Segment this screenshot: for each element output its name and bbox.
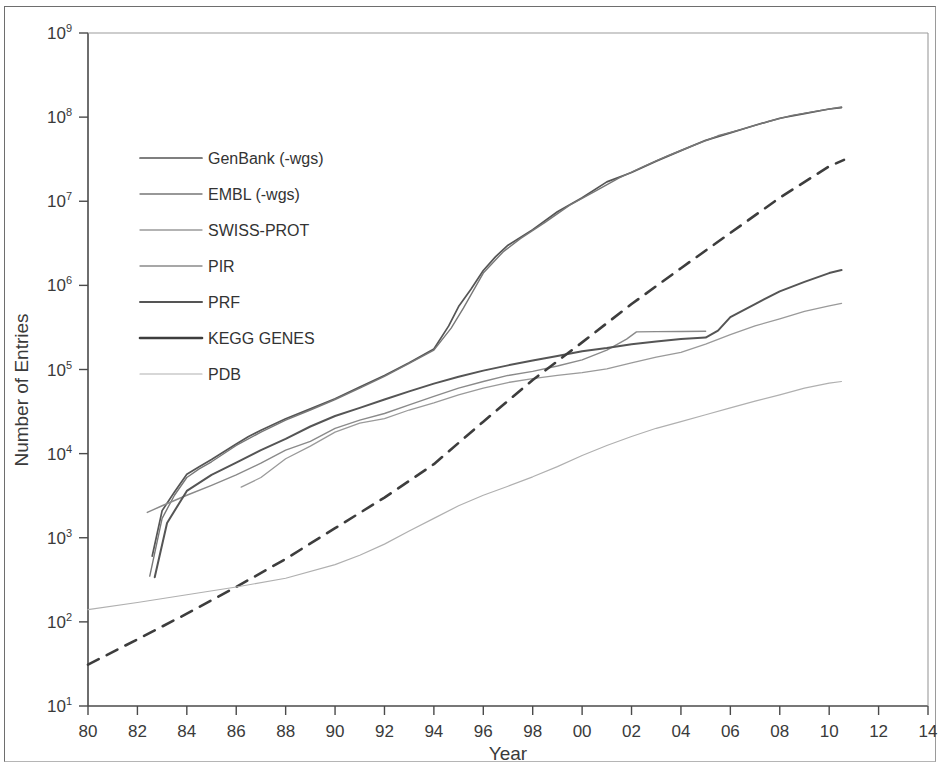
y-axis-ticks: 101102103104105106107108109 xyxy=(47,22,88,716)
y-tick-label: 104 xyxy=(47,443,72,464)
series-line-pdb xyxy=(88,382,842,610)
legend-label: SWISS-PROT xyxy=(208,222,310,239)
legend-label: PRF xyxy=(208,294,240,311)
legend-item: PRF xyxy=(140,294,240,311)
x-tick-label: 96 xyxy=(474,722,493,741)
chart-canvas: 808284868890929496980002040608101214 101… xyxy=(0,0,942,772)
x-tick-label: 06 xyxy=(721,722,740,741)
line-chart: 808284868890929496980002040608101214 101… xyxy=(0,0,942,772)
y-tick-label: 108 xyxy=(47,106,72,127)
series-line-swiss-prot xyxy=(241,303,841,487)
x-axis-ticks: 808284868890929496980002040608101214 xyxy=(79,706,938,741)
x-tick-label: 90 xyxy=(326,722,345,741)
x-tick-label: 94 xyxy=(424,722,443,741)
x-tick-label: 14 xyxy=(919,722,938,741)
x-tick-label: 82 xyxy=(128,722,147,741)
legend-label: PIR xyxy=(208,258,235,275)
x-tick-label: 08 xyxy=(770,722,789,741)
y-tick-label: 106 xyxy=(47,274,72,295)
x-tick-label: 04 xyxy=(671,722,690,741)
legend-item: KEGG GENES xyxy=(140,330,315,347)
x-tick-label: 10 xyxy=(820,722,839,741)
x-tick-label: 80 xyxy=(79,722,98,741)
legend-item: PDB xyxy=(140,366,241,383)
figure-page: 808284868890929496980002040608101214 101… xyxy=(0,0,942,772)
y-axis-title: Number of Entries xyxy=(11,313,32,466)
legend-item: GenBank (-wgs) xyxy=(140,150,324,167)
x-tick-label: 00 xyxy=(573,722,592,741)
legend-label: GenBank (-wgs) xyxy=(208,150,324,167)
x-tick-label: 88 xyxy=(276,722,295,741)
series-line-prf xyxy=(155,270,842,577)
y-tick-label: 101 xyxy=(47,695,72,716)
legend-label: PDB xyxy=(208,366,241,383)
legend-label: EMBL (-wgs) xyxy=(208,186,300,203)
legend-item: PIR xyxy=(140,258,235,275)
x-tick-label: 84 xyxy=(177,722,196,741)
legend-item: SWISS-PROT xyxy=(140,222,310,239)
data-series-layer xyxy=(88,107,844,665)
y-tick-label: 107 xyxy=(47,190,72,211)
series-line-pir xyxy=(147,331,705,512)
chart-legend: GenBank (-wgs)EMBL (-wgs)SWISS-PROTPIRPR… xyxy=(140,150,324,383)
y-tick-label: 103 xyxy=(47,527,72,548)
x-tick-label: 86 xyxy=(227,722,246,741)
x-tick-label: 12 xyxy=(869,722,888,741)
x-tick-label: 02 xyxy=(622,722,641,741)
y-tick-label: 102 xyxy=(47,611,72,632)
series-line-kegg-genes xyxy=(88,160,844,665)
x-axis-title: Year xyxy=(489,743,528,764)
x-tick-label: 98 xyxy=(523,722,542,741)
x-tick-label: 92 xyxy=(375,722,394,741)
legend-label: KEGG GENES xyxy=(208,330,315,347)
legend-item: EMBL (-wgs) xyxy=(140,186,300,203)
y-tick-label: 109 xyxy=(47,22,72,43)
y-tick-label: 105 xyxy=(47,359,72,380)
